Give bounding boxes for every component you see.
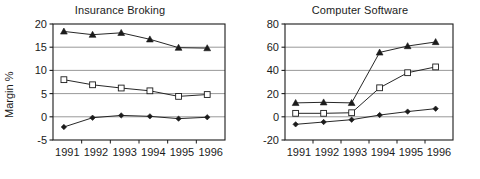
data-point-square [147,88,153,94]
y-axis-tick-label: 0 [41,111,47,123]
y-axis-tick-label: 0 [273,111,279,123]
x-axis-tick-label: 1996 [198,146,222,158]
y-axis-tick-label: 40 [267,64,279,76]
data-point-square [293,110,299,116]
x-axis-tick-label: 1994 [371,146,395,158]
y-axis-tick-label: 80 [267,18,279,30]
data-point-diamond [349,117,354,122]
y-axis-tick-label: 15 [35,41,47,53]
data-point-square [118,85,124,91]
y-axis-tick-label: -20 [263,134,279,146]
data-point-square [61,77,67,83]
chart-panel-computer-software: Computer Software -200204060801991199219… [240,0,480,179]
data-point-diamond [321,119,326,124]
data-point-square [349,110,355,116]
x-axis-tick-label: 1992 [315,146,339,158]
x-axis-tick-label: 1992 [84,146,108,158]
y-axis-tick-label: 10 [35,64,47,76]
figure-root: Insurance Broking Margin % -505101520199… [0,0,480,179]
data-point-diamond [205,115,210,120]
data-point-square [90,82,96,88]
plot-area-right: -20020406080199119921993199419951996 [240,0,480,179]
data-point-diamond [405,109,410,114]
plot-area-left: -505101520199119921993199419951996 [0,0,240,179]
x-axis-tick-label: 1991 [287,146,311,158]
x-axis-tick-label: 1994 [141,146,165,158]
data-point-diamond [119,113,124,118]
data-point-diamond [433,106,438,111]
x-axis-tick-label: 1993 [112,146,136,158]
data-point-diamond [293,122,298,127]
data-point-square [204,92,210,98]
data-point-square [433,64,439,70]
data-point-triangle [118,29,125,35]
data-point-triangle [60,28,67,34]
data-point-square [321,110,327,116]
data-point-triangle [432,39,439,45]
x-axis-tick-label: 1993 [343,146,367,158]
data-point-diamond [61,124,66,129]
x-axis-tick-label: 1996 [427,146,451,158]
data-point-diamond [147,114,152,119]
plot-frame [285,24,453,140]
y-axis-tick-label: 60 [267,41,279,53]
series-line-series-triangle [64,31,207,48]
data-point-square [176,93,182,99]
x-axis-tick-label: 1995 [399,146,423,158]
y-axis-tick-label: -5 [37,134,47,146]
y-axis-tick-label: 20 [267,88,279,100]
data-point-diamond [90,115,95,120]
x-axis-tick-label: 1991 [55,146,79,158]
y-axis-tick-label: 5 [41,88,47,100]
chart-panel-insurance-broking: Insurance Broking Margin % -505101520199… [0,0,240,179]
data-point-square [405,70,411,76]
y-axis-tick-label: 20 [35,18,47,30]
data-point-square [377,85,383,91]
series-line-series-square [296,67,436,113]
x-axis-tick-label: 1995 [170,146,194,158]
